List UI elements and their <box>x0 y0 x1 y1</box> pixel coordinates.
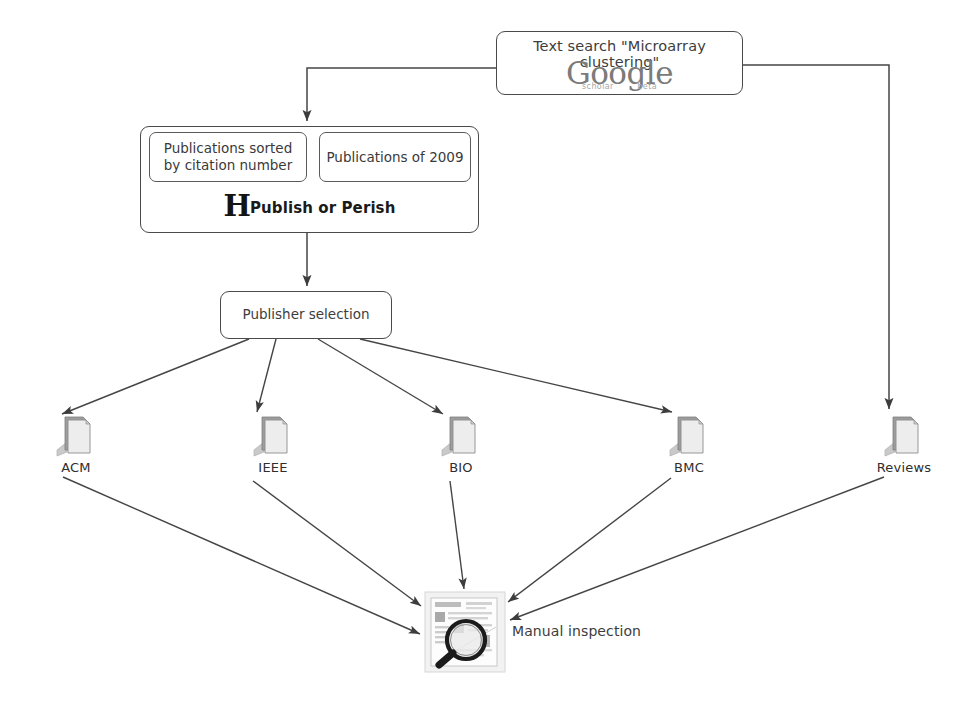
filter-sorted-line2: by citation number <box>164 157 292 173</box>
text-search-box[interactable]: Text search "Microarray clustering" Goog… <box>496 31 743 95</box>
manual-inspection-label: Manual inspection <box>512 623 641 639</box>
edge-bmc-to-manual-inspection <box>508 478 671 602</box>
source-label: IEEE <box>227 460 319 475</box>
publish-or-perish-name: Publish or Perish <box>250 199 395 217</box>
document-stack-icon <box>250 412 296 458</box>
document-stack-icon <box>881 412 927 458</box>
publisher-selection-label: Publisher selection <box>221 306 391 322</box>
document-stack-icon <box>438 412 484 458</box>
source-label: BIO <box>415 460 507 475</box>
magnifier-over-document-icon <box>424 591 506 673</box>
publish-or-perish-initial-icon: H <box>224 189 250 223</box>
source-label: ACM <box>30 460 122 475</box>
document-stack-icon <box>666 412 712 458</box>
publish-or-perish-box[interactable]: Publications sorted by citation number P… <box>140 126 479 233</box>
google-scholar-beta-subtext: scholar beta <box>582 82 657 91</box>
source-node-bmc[interactable]: BMC <box>643 412 735 475</box>
source-node-bio[interactable]: BIO <box>415 412 507 475</box>
filter-year-label: Publications of 2009 <box>326 149 463 165</box>
beta-subtext: beta <box>637 82 657 91</box>
source-node-ieee[interactable]: IEEE <box>227 412 319 475</box>
filter-publications-of-year[interactable]: Publications of 2009 <box>319 132 471 182</box>
edge-search-to-reviews <box>743 65 889 409</box>
filter-sorted-line1: Publications sorted <box>164 140 292 156</box>
source-label: Reviews <box>858 460 950 475</box>
edge-ieee-to-manual-inspection <box>253 481 421 606</box>
edge-publisher-selection-to-bio <box>318 339 443 414</box>
edge-publisher-selection-to-ieee <box>257 339 276 412</box>
edge-bio-to-manual-inspection <box>450 481 464 589</box>
edge-search-to-publish-or-perish <box>307 68 496 121</box>
edge-publisher-selection-to-acm <box>62 339 249 414</box>
scholar-subtext: scholar <box>582 82 614 91</box>
publish-or-perish-logo: HPublish or Perish <box>141 189 478 223</box>
edge-reviews-to-manual-inspection <box>510 477 884 620</box>
diagram-canvas: Text search "Microarray clustering" Goog… <box>0 0 959 702</box>
google-scholar-logo: Google scholar beta <box>497 58 742 92</box>
filter-sorted-label: Publications sorted by citation number <box>164 140 292 174</box>
edge-publisher-selection-to-bmc <box>360 339 672 412</box>
edge-acm-to-manual-inspection <box>63 477 420 634</box>
source-label: BMC <box>643 460 735 475</box>
source-node-reviews[interactable]: Reviews <box>858 412 950 475</box>
filter-publications-sorted-by-citation[interactable]: Publications sorted by citation number <box>149 132 307 182</box>
publisher-selection-box[interactable]: Publisher selection <box>220 291 392 339</box>
manual-inspection-node[interactable] <box>424 591 506 673</box>
source-node-acm[interactable]: ACM <box>30 412 122 475</box>
document-stack-icon <box>53 412 99 458</box>
